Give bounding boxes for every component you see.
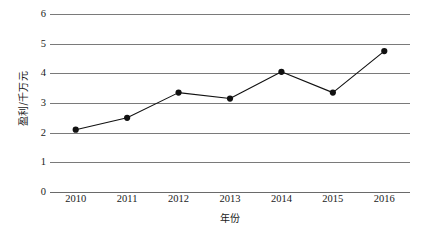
y-tick-5: 5: [41, 38, 46, 49]
data-point-2011: [124, 115, 130, 121]
y-tick-4: 4: [41, 68, 46, 79]
y-tick-1: 1: [41, 157, 46, 168]
x-axis-tick-labels: 2010201120122013201420152016: [50, 194, 410, 210]
x-tick-2015: 2015: [322, 194, 343, 205]
data-point-2013: [227, 95, 233, 101]
y-tick-3: 3: [41, 98, 46, 109]
data-series-line: [50, 14, 410, 192]
x-tick-2016: 2016: [374, 194, 395, 205]
x-tick-2014: 2014: [271, 194, 292, 205]
plot-area: [50, 14, 410, 192]
x-axis-title: 年份: [50, 210, 410, 225]
data-point-2012: [175, 90, 181, 96]
x-tick-2013: 2013: [220, 194, 241, 205]
data-point-2014: [278, 69, 284, 75]
x-tick-2011: 2011: [117, 194, 138, 205]
line-chart: 盈利/千万元 0123456 2010201120122013201420152…: [0, 0, 427, 233]
data-point-2015: [330, 90, 336, 96]
y-axis-tick-labels: 0123456: [30, 14, 46, 192]
y-tick-6: 6: [41, 9, 46, 20]
x-tick-2012: 2012: [168, 194, 189, 205]
y-tick-0: 0: [41, 187, 46, 198]
series-polyline: [76, 51, 385, 130]
y-axis-title-label: 盈利/千万元: [16, 70, 31, 125]
x-tick-2010: 2010: [65, 194, 86, 205]
y-tick-2: 2: [41, 127, 46, 138]
data-point-2016: [381, 48, 387, 54]
data-point-2010: [73, 127, 79, 133]
